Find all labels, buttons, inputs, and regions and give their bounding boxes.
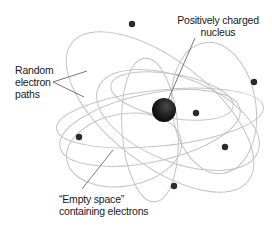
nucleus xyxy=(152,98,176,122)
nucleus-leader-line xyxy=(168,38,195,100)
orbit-path xyxy=(163,37,265,179)
empty-space-label-line1: “Empty space” xyxy=(59,193,148,205)
electron xyxy=(76,134,82,140)
paths-label-line2: electron xyxy=(15,76,54,88)
nucleus-label: Positively charged nucleus xyxy=(176,14,260,38)
electron xyxy=(171,183,177,189)
nucleus-label-line1: Positively charged xyxy=(176,14,260,26)
nucleus-label-line2: nucleus xyxy=(176,26,260,38)
paths-label-line1: Random xyxy=(15,64,54,76)
electron xyxy=(222,144,228,150)
orbit-path xyxy=(117,56,183,204)
empty-space-label-line2: containing electrons xyxy=(59,205,148,217)
random-paths-label: Random electron paths xyxy=(15,64,54,100)
empty-space-leader-line xyxy=(82,150,113,189)
empty-space-label: “Empty space” containing electrons xyxy=(59,193,148,217)
electron xyxy=(251,79,257,85)
paths-label-line3: paths xyxy=(15,88,54,100)
paths-leader-line-lower xyxy=(53,82,84,97)
electron xyxy=(193,110,199,116)
electron xyxy=(129,21,135,27)
